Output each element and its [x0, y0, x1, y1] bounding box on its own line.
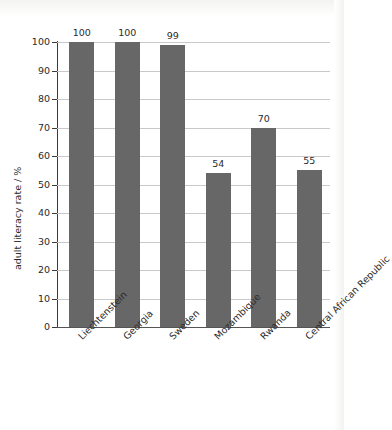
bar-value-label: 100 — [61, 28, 102, 38]
y-axis-tick-label: 40 — [38, 208, 50, 218]
y-axis-tick-label: 10 — [38, 294, 50, 304]
bar — [297, 170, 322, 327]
gridline — [57, 299, 330, 300]
y-axis-tick-label: 80 — [38, 94, 50, 104]
bar — [206, 173, 231, 327]
bar-value-label: 99 — [152, 31, 193, 41]
y-axis-tick-label: 90 — [38, 66, 50, 76]
bar-value-label: 100 — [107, 28, 148, 38]
gridline — [57, 71, 330, 72]
bar-value-label: 55 — [289, 156, 330, 166]
gridline — [57, 270, 330, 271]
scan-edge-right — [334, 0, 344, 430]
y-axis-tick-label: 70 — [38, 123, 50, 133]
bar — [69, 42, 94, 327]
scan-edge-top — [0, 0, 344, 16]
y-axis-tick-label: 100 — [32, 37, 50, 47]
bar — [160, 45, 185, 327]
y-axis-tick-label: 0 — [44, 322, 50, 332]
y-axis-tick-label: 50 — [38, 180, 50, 190]
gridline — [57, 42, 330, 43]
bar-value-label: 70 — [243, 114, 284, 124]
plot-area — [57, 42, 330, 327]
y-axis-label: adult literacy rate / % — [12, 130, 23, 270]
gridline — [57, 213, 330, 214]
gridline — [57, 99, 330, 100]
y-axis-tick-label: 20 — [38, 265, 50, 275]
gridline — [57, 242, 330, 243]
bar-value-label: 54 — [198, 159, 239, 169]
y-axis-tick-label: 60 — [38, 151, 50, 161]
bar — [115, 42, 140, 327]
gridline — [57, 185, 330, 186]
y-axis-tick-label: 30 — [38, 237, 50, 247]
gridline — [57, 128, 330, 129]
